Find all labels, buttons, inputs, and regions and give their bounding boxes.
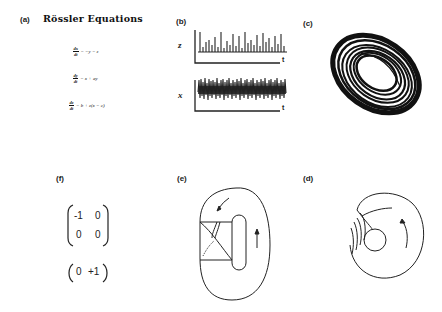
panel-c-label: (c) <box>303 19 313 28</box>
matrix-entry-11: -1 <box>74 210 83 221</box>
matrix-entry-21: 0 <box>76 229 82 240</box>
x-time-series-plot <box>195 78 286 111</box>
panel-e-label: (e) <box>177 174 187 183</box>
rossler-attractor <box>318 19 434 129</box>
panel-f-label: (f) <box>56 174 64 183</box>
figure: (a) Rössler Equations dx dt = −y − z dy … <box>0 0 442 312</box>
z-time-series-plot <box>195 30 287 63</box>
matrix-entry-22: 0 <box>95 229 101 240</box>
vector-entry-2: +1 <box>88 266 99 277</box>
matrix-entry-12: 0 <box>95 210 101 221</box>
branched-manifold-diagram <box>350 193 424 278</box>
figure-graphics <box>0 0 442 312</box>
vector-entry-1: 0 <box>76 266 82 277</box>
template-diagram <box>200 188 270 300</box>
panel-d-label: (d) <box>303 174 313 183</box>
